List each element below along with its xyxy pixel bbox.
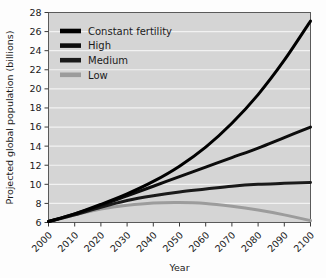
y-tick-label: 20: [29, 83, 41, 94]
x-tick-label: 2060: [186, 229, 211, 254]
y-tick-label: 28: [29, 7, 41, 18]
x-tick-label: 2000: [29, 229, 54, 254]
x-axis-title: Year: [168, 262, 189, 273]
x-tick-label: 2010: [55, 229, 80, 254]
x-tick-label: 2050: [160, 229, 185, 254]
y-tick-label: 22: [29, 64, 41, 75]
x-tick-label: 2040: [134, 229, 159, 254]
x-tick-label: 2020: [82, 229, 107, 254]
x-tick-label: 2090: [265, 229, 290, 254]
y-tick-label: 26: [29, 26, 41, 37]
legend-label-high: High: [88, 40, 111, 51]
x-tick-label: 2030: [108, 229, 133, 254]
y-tick-label: 8: [35, 198, 41, 209]
x-tick-label: 2070: [213, 229, 238, 254]
y-tick-label: 6: [35, 217, 41, 228]
y-axis-title: Projected global population (billions): [4, 31, 15, 205]
y-tick-label: 14: [29, 141, 41, 152]
legend-label-medium: Medium: [88, 55, 128, 66]
x-tick-label: 2080: [239, 229, 264, 254]
y-tick-label: 10: [29, 179, 41, 190]
y-tick-label: 16: [29, 121, 41, 132]
x-tick-label: 2100: [291, 229, 316, 254]
y-tick-label: 12: [29, 160, 41, 171]
legend-label-low: Low: [88, 70, 108, 81]
y-tick-label: 24: [29, 45, 41, 56]
projected-population-chart: 6810121416182022242628200020102020203020…: [0, 0, 326, 278]
y-tick-label: 18: [29, 102, 41, 113]
legend-label-constant-fertility: Constant fertility: [88, 26, 172, 37]
chart-canvas: 6810121416182022242628200020102020203020…: [0, 0, 326, 278]
